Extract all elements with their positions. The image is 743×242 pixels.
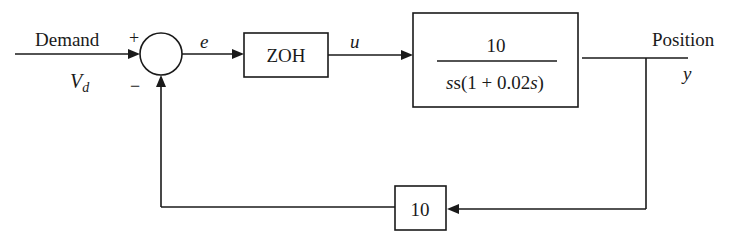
error-arrow-icon <box>232 49 244 59</box>
feedback-junction-arrow-icon <box>156 75 166 87</box>
summing-junction <box>140 33 182 75</box>
plus-sign: + <box>129 28 139 48</box>
plant-denominator: ss(1 + 0.02s) <box>446 72 544 94</box>
zoh-block: ZOH <box>244 33 328 77</box>
block-diagram: Demand Vd + − e ZOH u 10 ss(1 + 0.02s) P… <box>0 0 743 242</box>
input-arrow-icon <box>128 49 140 59</box>
feedback-return <box>156 75 395 207</box>
feedback-block: 10 <box>395 186 446 230</box>
position-label: Position <box>652 29 715 50</box>
input-symbol: Vd <box>70 70 90 95</box>
control-label: u <box>350 31 360 52</box>
plant-block: 10 ss(1 + 0.02s) <box>413 13 578 107</box>
demand-label: Demand <box>35 29 100 50</box>
minus-sign: − <box>130 76 140 96</box>
error-label: e <box>200 31 208 52</box>
feedback-gain-label: 10 <box>411 199 430 220</box>
input-signal <box>15 49 140 59</box>
control-signal <box>328 50 413 60</box>
control-arrow-icon <box>401 50 413 60</box>
zoh-label: ZOH <box>266 45 305 66</box>
error-signal <box>182 49 244 59</box>
feedback-arrow-icon <box>447 204 459 214</box>
plant-numerator: 10 <box>487 35 506 56</box>
output-symbol: y <box>681 63 692 84</box>
